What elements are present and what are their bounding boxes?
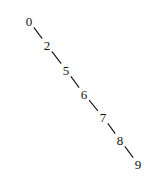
- tree-edge-6-7: [89, 100, 98, 111]
- tree-edge-2-5: [52, 51, 61, 63]
- tree-node-7: 7: [100, 110, 107, 125]
- tree-node-8: 8: [117, 133, 124, 148]
- tree-nodes: 0 2 5 6 7 8 9: [26, 14, 142, 172]
- tree-node-5: 5: [63, 63, 70, 78]
- tree-node-0: 0: [26, 14, 33, 29]
- tree-edge-5-6: [71, 76, 79, 87]
- tree-node-2: 2: [44, 38, 51, 53]
- tree-edge-8-9: [125, 146, 133, 157]
- tree-diagram: 0 2 5 6 7 8 9: [0, 0, 148, 178]
- tree-node-6: 6: [81, 87, 88, 102]
- tree-node-9: 9: [135, 157, 142, 172]
- tree-edge-0-2: [34, 27, 42, 38]
- tree-edge-7-8: [108, 123, 115, 133]
